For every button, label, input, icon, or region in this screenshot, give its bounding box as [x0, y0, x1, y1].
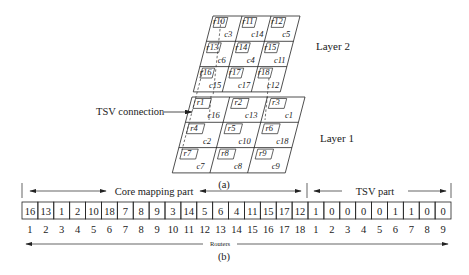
cell-index: 8: [425, 224, 430, 235]
cell-index: 6: [393, 224, 398, 235]
cell-value: 15: [263, 206, 274, 217]
tile-r4: r4c2: [186, 123, 211, 146]
cell-value: 5: [202, 206, 207, 217]
cell-value: 12: [295, 206, 306, 217]
router-label: r6: [266, 123, 274, 133]
cell-index: 15: [247, 224, 258, 235]
core-label: c11: [274, 55, 286, 65]
cell-value: 10: [88, 206, 99, 217]
cell-index: 14: [231, 224, 242, 235]
cell-index: 3: [59, 224, 64, 235]
cell-index: 1: [27, 224, 32, 235]
cell-value: 1: [59, 206, 64, 217]
layer-grid-1: r1c16r2c13r3c1r4c2r5c10r6c18r7c7r8c8r9c9: [172, 97, 305, 173]
cell-index: 4: [361, 224, 367, 235]
cell-index: 5: [377, 224, 382, 235]
core-mapping-cell: 88: [133, 202, 149, 235]
router-label: r17: [229, 67, 242, 77]
cell-value: 11: [247, 206, 257, 217]
router-label: r3: [272, 97, 280, 107]
cell-index: 2: [329, 224, 334, 235]
core-label: c13: [245, 110, 257, 120]
cell-index: 9: [440, 224, 445, 235]
cell-value: 1: [313, 206, 318, 217]
router-label: r7: [184, 148, 192, 158]
cell-index: 8: [139, 224, 144, 235]
cell-index: 17: [279, 224, 290, 235]
caption-b: (b): [218, 251, 231, 263]
cell-value: 0: [329, 206, 334, 217]
tsv-cell: 08: [419, 202, 435, 235]
cell-value: 16: [25, 206, 36, 217]
tile-r2: r2c13: [231, 97, 258, 120]
core-label: c12: [267, 80, 280, 90]
router-label: r2: [234, 97, 242, 107]
cell-value: 4: [234, 206, 240, 217]
cell-index: 5: [91, 224, 96, 235]
cell-value: 17: [279, 206, 290, 217]
tsv-cell: 05: [372, 202, 388, 235]
core-label: c15: [209, 80, 221, 90]
core-mapping-cell: 414: [229, 202, 245, 235]
tile-r12: r12c5: [271, 16, 290, 39]
tsv-cell: 11: [308, 202, 324, 235]
core-label: c6: [218, 55, 227, 65]
routers-label: Routers: [210, 240, 231, 247]
router-label: r10: [213, 16, 226, 26]
cell-value: 18: [104, 206, 115, 217]
cell-index: 16: [263, 224, 274, 235]
cell-index: 3: [345, 224, 350, 235]
cell-value: 2: [75, 206, 80, 217]
cell-value: 13: [41, 206, 52, 217]
router-label: r1: [197, 97, 205, 107]
tile-r15: r15c11: [264, 42, 285, 65]
core-mapping-cell: 13: [54, 202, 70, 235]
tsv-cell: 02: [324, 202, 340, 235]
tile-r14: r14c4: [235, 42, 255, 65]
tile-r5: r5c10: [224, 123, 251, 146]
router-label: r15: [264, 42, 276, 52]
tile-r11: r11c14: [242, 16, 264, 39]
cell-value: 6: [218, 206, 223, 217]
layer-grid-2: r10c3r11c14r12c5r13c6r14c4r15c11r16c15r1…: [193, 16, 300, 92]
tile-r17: r17c17: [229, 67, 251, 90]
cell-value: 0: [425, 206, 430, 217]
core-mapping-cell: 99: [149, 202, 165, 235]
cell-index: 7: [409, 224, 414, 235]
cell-value: 0: [440, 206, 445, 217]
tile-r8: r8c8: [218, 148, 243, 171]
core-mapping-cell: 161: [22, 202, 38, 235]
tile-r1: r1c16: [193, 97, 220, 120]
core-mapping-cell: 77: [117, 202, 133, 235]
tsv-cell: 04: [356, 202, 372, 235]
cell-index: 4: [75, 224, 81, 235]
cell-value: 1: [393, 206, 398, 217]
tile-r6: r6c18: [262, 123, 289, 146]
router-label: r18: [258, 67, 271, 77]
router-label: r14: [235, 42, 248, 52]
tsv-cell: 17: [403, 202, 419, 235]
core-label: c14: [251, 29, 264, 39]
core-mapping-cell: 512: [197, 202, 213, 235]
core-mapping-label: Core mapping part: [115, 186, 194, 197]
cell-value: 1: [409, 206, 414, 217]
cell-index: 2: [43, 224, 48, 235]
tile-r3: r3c1: [268, 97, 293, 120]
core-mapping-cell: 24: [70, 202, 86, 235]
tile-r9: r9c9: [255, 148, 280, 171]
core-mapping-cell: 1115: [244, 202, 260, 235]
tsv-cell: 09: [435, 202, 451, 235]
tsv-connection-label: TSV connection: [96, 106, 165, 117]
core-label: c9: [272, 161, 281, 171]
router-label: r13: [206, 42, 218, 52]
core-label: c7: [196, 161, 205, 171]
router-label: r5: [228, 123, 236, 133]
cell-index: 9: [154, 224, 159, 235]
core-label: c1: [285, 110, 293, 120]
core-label: c3: [224, 29, 232, 39]
core-label: c2: [203, 136, 212, 146]
chromosome-cells: 1611321324105186778899310141151261341411…: [22, 202, 451, 235]
cell-value: 0: [377, 206, 382, 217]
cell-index: 12: [199, 224, 210, 235]
router-label: r12: [271, 16, 284, 26]
